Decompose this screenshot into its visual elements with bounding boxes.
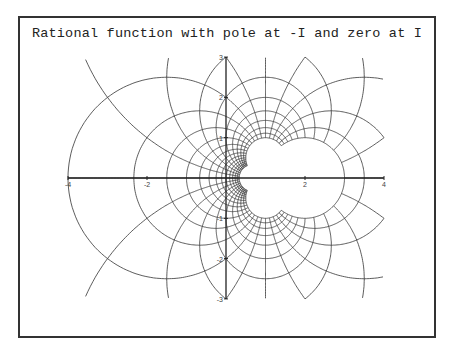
x-tick-label: 4 bbox=[382, 181, 386, 188]
conformal-plot: -4-224-3-2-1123 bbox=[0, 0, 452, 355]
y-tick-label: 3 bbox=[219, 54, 223, 61]
y-tick-label: -1 bbox=[217, 215, 223, 222]
y-tick-label: 2 bbox=[219, 94, 223, 101]
x-tick-label: -2 bbox=[144, 181, 150, 188]
x-tick-label: 2 bbox=[303, 181, 307, 188]
y-tick-label: 1 bbox=[219, 135, 223, 142]
axes: -4-224-3-2-1123 bbox=[65, 54, 386, 303]
x-tick-label: -4 bbox=[65, 181, 71, 188]
y-tick-label: -2 bbox=[217, 256, 223, 263]
y-tick-label: -3 bbox=[217, 296, 223, 303]
